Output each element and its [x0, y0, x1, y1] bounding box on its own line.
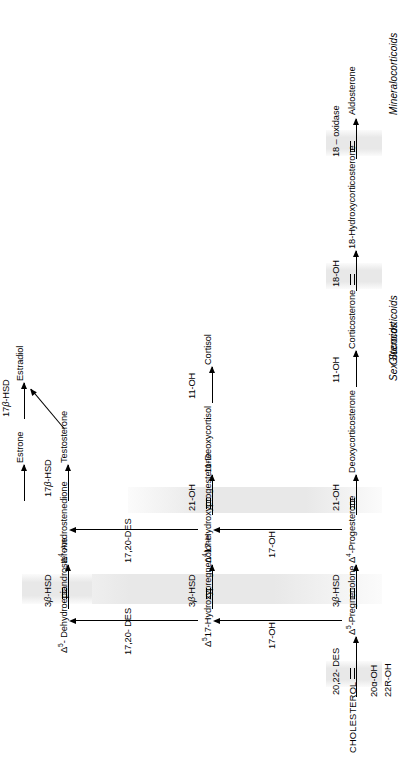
arrow-18-hydroxycorticosterone-to-aldosterone — [356, 119, 357, 159]
arrow-17ohprogesterone-to-androstenedione — [76, 529, 198, 530]
enzyme-marker-18-oxidase — [350, 141, 355, 152]
enzyme-label-3b-hsd-row1: 3β-HSD — [44, 574, 54, 607]
arrow-progesterone-to-doc — [356, 475, 357, 515]
enzyme-label-17-oh-delta4: 17-OH — [268, 531, 278, 558]
enzyme-marker-3b-hsd-row2 — [206, 588, 211, 599]
enzyme-label-21-oh-row2: 21-OH — [188, 484, 198, 511]
arrow-corticosterone-to-18-hydroxycorticosterone — [356, 251, 357, 291]
enzyme-label-3b-hsd-row2: 3β-HSD — [188, 574, 198, 607]
arrow-dhea-to-androstenedione — [68, 565, 69, 609]
enzyme-label-18-oh: 18-OH — [332, 260, 342, 287]
node-deoxycorticosterone: Deoxycorticosterone — [348, 390, 358, 473]
arrow-doc-to-corticosterone — [356, 351, 357, 387]
arrow-pregnenolone-to-progesterone — [356, 565, 357, 609]
arrow-androstenedione-to-estrone — [24, 465, 25, 501]
zone-label-mineralocorticoids: Mineralocorticoids — [388, 33, 399, 115]
figure-page: CHOLESTEROL 20,22- DES 20α-OH 22R-OH Δ5-… — [0, 0, 407, 759]
enzyme-label-17-20-des-delta4: 17,20-DES — [124, 518, 134, 563]
enzyme-marker-20-22-des — [350, 668, 355, 679]
enzyme-label-11-oh-row2: 11-OH — [188, 373, 198, 399]
enzyme-label-3b-hsd-row3: 3β-HSD — [332, 574, 342, 607]
node-estrone: Estrone — [16, 432, 26, 463]
enzyme-label-21-oh-row3: 21-OH — [332, 484, 342, 511]
arrow-androstenedione-to-testosterone — [68, 465, 69, 501]
enzyme-label-11-oh-row3: 11-OH — [332, 357, 342, 383]
enzyme-marker-21-oh-row2 — [206, 498, 211, 509]
arrow-17ohprogesterone-to-11-deoxycortisol — [212, 475, 213, 515]
arrow-17ohpregnenolone-to-dhea — [76, 620, 198, 621]
enzyme-marker-18-oh — [350, 274, 355, 285]
node-corticosterone: Corticosterone — [348, 290, 358, 349]
node-testosterone: Testosterone — [60, 411, 70, 463]
pathway-canvas: CHOLESTEROL 20,22- DES 20α-OH 22R-OH Δ5-… — [0, 0, 407, 759]
enzyme-marker-21-oh-row3 — [350, 498, 355, 509]
arrow-17ohpregnenolone-to-17ohprogesterone — [212, 565, 213, 609]
arrow-pregnenolone-to-17-hydroxypregnenolone — [220, 620, 342, 621]
enzyme-marker-3b-hsd-row3 — [350, 588, 355, 599]
enzyme-label-17b-hsd-estradiol: 17β-HSD — [2, 379, 12, 417]
zone-label-sex-steroids: Sex Steroids — [388, 323, 399, 381]
node-estradiol: Estradiol — [16, 346, 26, 381]
node-11-deoxycortisol: 11-Deoxycortisol — [204, 406, 214, 473]
arrow-estrone-to-estradiol — [24, 383, 25, 419]
highlight-band-3b-hsd-top — [22, 574, 92, 604]
arrow-cholesterol-to-pregnenolone — [356, 637, 357, 697]
enzyme-label-17-oh-delta5: 17-OH — [268, 622, 278, 649]
arrow-testosterone-to-estradiol — [31, 389, 65, 429]
node-cortisol: Cortisol — [204, 334, 214, 365]
cofactor-label-20a-oh: 20α-OH — [370, 665, 380, 697]
node-aldosterone: Aldosterone — [348, 66, 358, 115]
enzyme-label-18-oxidase: 18 – oxidase — [332, 105, 342, 157]
arrow-11-deoxycortisol-to-cortisol — [212, 367, 213, 403]
node-18-hydroxycorticosterone: 18-Hydroxycorticosterone — [348, 145, 358, 249]
cofactor-label-22r-oh: 22R-OH — [384, 664, 394, 698]
arrow-progesterone-to-17-hydroxyprogesterone — [220, 529, 342, 530]
enzyme-label-17-20-des-delta5: 17,20- DES — [124, 608, 134, 655]
enzyme-label-20-22-des: 20,22- DES — [332, 648, 342, 695]
enzyme-label-17b-hsd-testosterone: 17β-HSD — [44, 459, 54, 497]
highlight-band-21-oh — [128, 487, 382, 513]
enzyme-marker-3b-hsd-row1 — [62, 588, 67, 599]
